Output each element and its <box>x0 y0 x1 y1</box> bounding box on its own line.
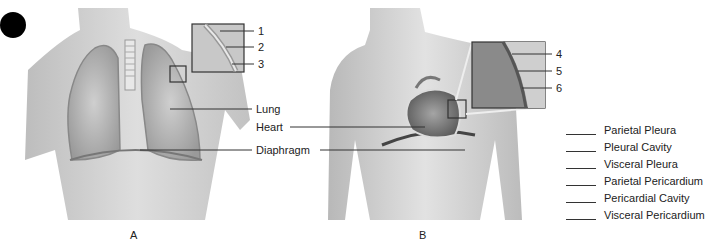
answer-blank[interactable] <box>566 143 596 152</box>
answer-key-item[interactable]: Parietal Pericardium <box>566 175 703 187</box>
term-label: Parietal Pleura <box>604 124 676 136</box>
term-label: Pericardial Cavity <box>604 192 690 204</box>
answer-blank[interactable] <box>566 211 596 220</box>
answer-blank[interactable] <box>566 177 596 186</box>
lung-label: Lung <box>256 104 280 115</box>
figure-a-illustration <box>0 0 290 225</box>
answer-key-item[interactable]: Pericardial Cavity <box>566 192 690 204</box>
answer-blank[interactable] <box>566 126 596 135</box>
answer-blank[interactable] <box>566 160 596 169</box>
term-label: Parietal Pericardium <box>604 175 703 187</box>
heart-label: Heart <box>256 122 283 133</box>
answer-blank[interactable] <box>566 194 596 203</box>
inset-number-3: 3 <box>258 59 264 70</box>
inset-number-2: 2 <box>258 42 264 53</box>
inset-number-4: 4 <box>556 49 562 60</box>
figure-a-caption: A <box>130 229 137 241</box>
inset-number-6: 6 <box>556 83 562 94</box>
term-label: Visceral Pleura <box>604 158 678 170</box>
inset-number-1: 1 <box>258 26 264 37</box>
answer-key-item[interactable]: Visceral Pericardium <box>566 209 705 221</box>
term-label: Pleural Cavity <box>604 141 672 153</box>
figure-b-illustration <box>290 0 560 225</box>
inset-number-5: 5 <box>556 66 562 77</box>
figure-b-caption: B <box>419 229 426 241</box>
term-label: Visceral Pericardium <box>604 209 705 221</box>
answer-key-item[interactable]: Visceral Pleura <box>566 158 678 170</box>
answer-key-item[interactable]: Pleural Cavity <box>566 141 672 153</box>
answer-key-item[interactable]: Parietal Pleura <box>566 124 676 136</box>
